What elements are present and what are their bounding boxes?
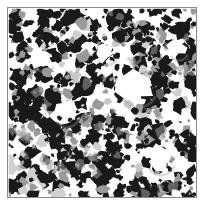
micrograph-image (8, 8, 196, 197)
micrograph-frame (7, 7, 197, 198)
figure-root (0, 0, 204, 207)
